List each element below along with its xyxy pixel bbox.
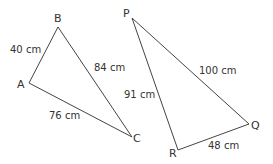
side-ab-label: 40 cm [10,45,41,55]
vertex-a-label: A [17,79,25,90]
vertex-r-label: R [169,148,177,159]
side-ac-label: 76 cm [49,111,80,121]
triangle-pqr [132,18,249,150]
diagram-canvas: A B C 40 cm 84 cm 76 cm P Q R 100 cm 91 … [0,0,273,164]
vertex-b-label: B [54,13,62,24]
side-pq-label: 100 cm [199,66,237,76]
triangle-abc [29,27,132,137]
vertex-q-label: Q [251,120,260,131]
side-pr-label: 91 cm [124,90,155,100]
side-bc-label: 84 cm [94,63,125,73]
side-rq-label: 48 cm [208,141,239,151]
vertex-p-label: P [123,8,130,19]
vertex-c-label: C [133,133,141,144]
